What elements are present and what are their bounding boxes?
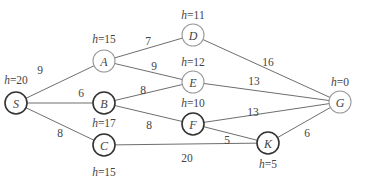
node-g: G — [329, 91, 351, 113]
heuristic-label-e: h=12 — [181, 56, 205, 68]
node-d: D — [182, 24, 204, 46]
heuristic-label-b: h=17 — [92, 117, 116, 129]
node-s: S — [5, 92, 27, 114]
edge-s-a — [16, 61, 104, 103]
node-f: F — [182, 113, 204, 135]
edge-weight-a-d: 7 — [145, 35, 151, 47]
edge-c-k — [104, 143, 268, 145]
edge-weight-d-g: 16 — [262, 56, 274, 68]
heuristic-label-s: h=20 — [4, 74, 28, 86]
edge-weight-b-e: 8 — [140, 84, 146, 96]
heuristic-label-d: h=11 — [181, 9, 205, 21]
heuristic-label-k: h=5 — [259, 158, 277, 170]
edge-weight-s-b: 6 — [78, 87, 84, 99]
node-label: D — [188, 29, 198, 43]
node-label: S — [13, 97, 19, 111]
search-graph-diagram: 96879882016131356 SABCDEFKG h=20h=15h=17… — [0, 0, 370, 185]
node-c: C — [93, 134, 115, 156]
node-label: B — [100, 97, 108, 111]
heuristic-labels-layer: h=20h=15h=17h=15h=11h=12h=10h=5h=0 — [4, 9, 349, 178]
heuristic-label-f: h=10 — [181, 97, 205, 109]
heuristic-label-g: h=0 — [331, 76, 349, 88]
node-label: G — [336, 96, 345, 110]
edge-b-e — [104, 82, 193, 103]
edge-weight-e-g: 13 — [248, 75, 260, 87]
edge-weight-a-e: 9 — [151, 60, 157, 72]
edge-weight-k-g: 6 — [304, 127, 310, 139]
edge-weight-c-k: 20 — [181, 152, 193, 164]
edge-a-e — [104, 61, 193, 82]
edge-f-g — [193, 102, 340, 124]
edges-layer — [16, 35, 340, 145]
edge-weight-s-c: 8 — [57, 127, 63, 139]
node-a: A — [93, 50, 115, 72]
node-label: E — [188, 76, 197, 90]
heuristic-label-a: h=15 — [92, 33, 116, 45]
heuristic-label-c: h=15 — [92, 166, 116, 178]
node-label: F — [188, 118, 197, 132]
edge-weight-f-k: 5 — [224, 134, 230, 146]
node-e: E — [182, 71, 204, 93]
edge-weight-f-g: 13 — [247, 106, 259, 118]
node-b: B — [93, 92, 115, 114]
node-label: C — [100, 139, 109, 153]
edge-weight-s-a: 9 — [37, 64, 43, 76]
edge-weight-b-f: 8 — [146, 119, 152, 131]
node-label: A — [99, 55, 108, 69]
node-k: K — [257, 132, 279, 154]
node-label: K — [263, 137, 273, 151]
